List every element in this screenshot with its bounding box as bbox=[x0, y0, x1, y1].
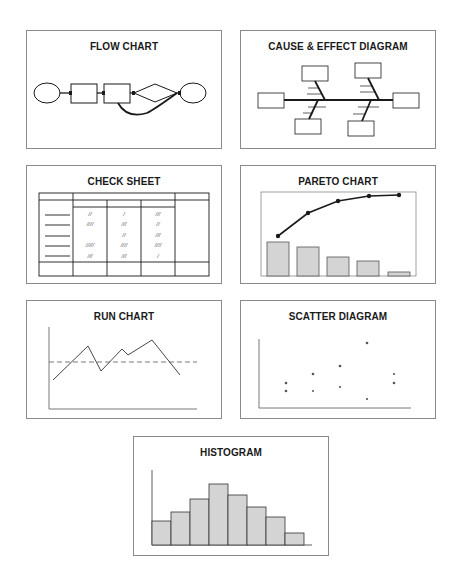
cause-box-top-2 bbox=[355, 63, 381, 78]
cause-box-bottom-1 bbox=[295, 119, 321, 134]
histogram-bar bbox=[171, 512, 190, 545]
histogram-bar bbox=[152, 521, 171, 545]
start-terminator-shape bbox=[34, 83, 60, 103]
tally-cell: /// bbox=[107, 251, 141, 261]
tally-cell: // bbox=[73, 209, 107, 219]
run-chart-panel: RUN CHART bbox=[26, 300, 222, 419]
tally-cell: //// bbox=[73, 219, 107, 229]
cause-box-bottom-2 bbox=[348, 121, 374, 136]
histogram-plot bbox=[134, 437, 330, 557]
histogram-bar bbox=[190, 499, 209, 545]
pareto-bar bbox=[297, 247, 319, 276]
histogram-panel: HISTOGRAM bbox=[133, 436, 329, 556]
pareto-chart-plot bbox=[241, 166, 437, 285]
pareto-bar bbox=[388, 272, 410, 276]
run-line bbox=[53, 340, 180, 380]
tally-cell: /// bbox=[107, 219, 141, 229]
end-terminator-shape bbox=[180, 83, 206, 103]
scatter-plot bbox=[241, 301, 437, 420]
histogram-bar bbox=[209, 484, 228, 545]
flow-chart-panel: FLOW CHART bbox=[26, 30, 222, 149]
tally-cell: //// bbox=[107, 240, 141, 250]
tally-cell: / bbox=[141, 251, 175, 261]
tally-cell: // bbox=[141, 219, 175, 229]
effect-box bbox=[393, 93, 419, 108]
cause-effect-panel: CAUSE & EFFECT DIAGRAM bbox=[240, 30, 436, 149]
process-box-1 bbox=[71, 84, 97, 103]
tally-cell: //// bbox=[141, 240, 175, 250]
tally-cell bbox=[73, 230, 107, 240]
pareto-chart-panel: PARETO CHART bbox=[240, 165, 436, 284]
cause-box-left bbox=[258, 93, 284, 108]
tally-cell: /// bbox=[141, 209, 175, 219]
fishbone-diagram bbox=[241, 31, 437, 150]
pareto-bar bbox=[267, 242, 289, 276]
pareto-bar bbox=[327, 257, 349, 276]
cause-box-top-1 bbox=[302, 66, 328, 81]
tally-cell: // bbox=[107, 230, 141, 240]
flow-chart-diagram bbox=[27, 31, 223, 150]
scatter-diagram-panel: SCATTER DIAGRAM bbox=[240, 300, 436, 419]
histogram-bar bbox=[266, 517, 285, 545]
histogram-bar bbox=[285, 533, 304, 545]
decision-diamond bbox=[134, 84, 177, 102]
histogram-bar bbox=[247, 507, 266, 545]
pareto-bar bbox=[357, 261, 379, 276]
check-sheet-panel: CHECK SHEET ////// ///////// ///// /////… bbox=[26, 165, 222, 284]
tally-cell: /// bbox=[141, 230, 175, 240]
process-box-2 bbox=[104, 84, 130, 103]
tally-cell: / bbox=[107, 209, 141, 219]
run-chart-plot bbox=[27, 301, 223, 420]
tally-cell: /// bbox=[73, 251, 107, 261]
histogram-bar bbox=[228, 495, 247, 545]
tally-grid: ////// ///////// ///// ///////////// ///… bbox=[73, 209, 175, 261]
tally-cell: ///// bbox=[73, 240, 107, 250]
